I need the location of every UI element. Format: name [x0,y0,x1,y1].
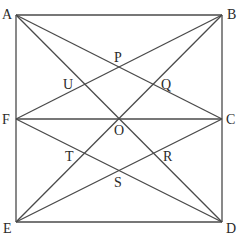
label-E: E [3,221,12,236]
label-S: S [114,175,122,190]
label-C: C [226,112,235,127]
label-R: R [163,149,173,164]
label-B: B [227,7,236,22]
label-P: P [114,50,122,65]
label-U: U [63,77,73,92]
label-D: D [226,221,236,236]
label-Q: Q [161,77,171,92]
label-T: T [65,149,74,164]
label-A: A [2,7,13,22]
geometry-diagram: A B F C E D P U Q O T R S [0,0,248,241]
label-O: O [114,123,124,138]
label-F: F [2,112,10,127]
